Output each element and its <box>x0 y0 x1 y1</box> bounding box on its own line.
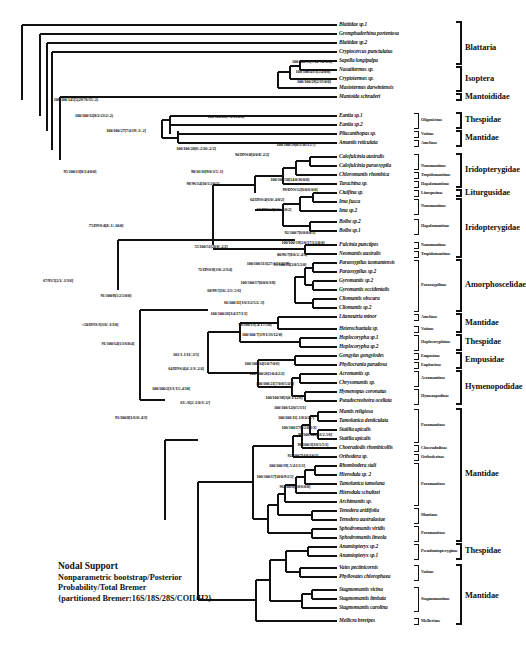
subfamily-label: Hoplocoryphinae <box>421 340 450 344</box>
taxon-label: Paraoxypilus tasmaniensis <box>339 260 395 265</box>
taxon-label: Paraoxypilus sp.2 <box>339 269 376 274</box>
taxon-label: Blattidae sp.1 <box>339 22 367 27</box>
nodal-support-value: 63/-/6[2/-1/0/3/-2/] <box>180 401 210 405</box>
subfamily-label: Stagmomantinae <box>421 597 450 601</box>
taxon-label: Tamolanica denticulata <box>339 418 388 423</box>
family-label: Thespidae <box>465 338 501 346</box>
taxon-label: Calofulcinia paraoxypila <box>339 163 391 168</box>
taxon-label: Sapella longipalpa <box>339 58 378 63</box>
nodal-support-value: 91/100/14[1/1/6/0/4] <box>102 342 135 346</box>
taxon-label: Phyllocrania paradoxa <box>339 362 387 367</box>
taxon-label: Cryptocercus punctulatus <box>339 49 392 54</box>
nodal-support-value: 100/100/21[7/0/0/5/4/0] <box>256 382 294 386</box>
taxon-label: Vates pectinicornis <box>339 565 378 570</box>
taxon-label: Hierodula sp. 2 <box>339 472 371 477</box>
taxon-label: Litaneutria minor <box>339 314 376 319</box>
taxon-label: Mantoida schraderi <box>339 94 380 99</box>
subfamily-label: Oligonicinae <box>421 118 442 122</box>
taxon-label: Choeradodis rhombicollis <box>339 445 393 450</box>
taxon-label: Mantis religiosa <box>339 409 373 414</box>
taxon-label: Tenodera aridifolia <box>339 508 379 513</box>
subfamily-label: Tropidomantinae <box>421 252 451 256</box>
family-label: Liturgusidae <box>465 189 510 197</box>
taxon-label: Amantis reticulata <box>339 140 378 145</box>
nodal-support-value: 92/100/7[4/0/1/0/1] <box>288 454 319 458</box>
taxon-label: Stagmomantis vicina <box>339 587 383 592</box>
nodal-support-value: 100/100/17[9/2/0/1/3] <box>282 426 317 430</box>
nodal-support-value: 55/100/51[20/0/-2/2] <box>194 245 227 249</box>
nodal-support-value: 64/DNS/4[4/-1/3/-2/4] <box>168 367 204 371</box>
subfamily-label: Nanomantinae <box>421 204 446 208</box>
family-label: Isoptera <box>465 75 494 83</box>
subfamily-label: Acromantinae <box>421 376 445 380</box>
subfamily-label: Empusinae <box>421 354 440 358</box>
family-label: Mantidae <box>465 134 499 142</box>
taxon-label: Eantia sp.2 <box>339 122 363 127</box>
taxon-label: Chloromantis rhombica <box>339 172 389 177</box>
subfamily-label: Choeradodinae <box>421 446 447 450</box>
taxon-label: Gyromantis occidentalis <box>339 287 389 292</box>
taxon-label: Ima sp.2 <box>339 208 357 213</box>
subfamily-label: Hymenopodinae <box>421 394 449 398</box>
subfamily-label: Hapalomantinae <box>421 224 449 228</box>
taxon-label: Orthodera sp. <box>339 454 368 459</box>
nodal-support-value: 100/100/19[-5/4/1/1/1] <box>269 464 305 468</box>
nodal-support-value: 96/100/8[9/0/6/0/0] <box>280 485 311 489</box>
nodal-support-value: 100/100/43/3[5/4/0/0] <box>296 70 331 74</box>
subfamily-label: Vatinae <box>421 132 434 136</box>
nodal-support-value: 66/100/11[3/6/3/2/5/2/-3] <box>224 301 264 305</box>
subfamily-label: Amelinae <box>421 315 437 319</box>
nodal-support-value: 98/96/14[10/1/2/0/1] <box>187 182 220 186</box>
taxon-label: Gongylus gongylodes <box>339 353 384 358</box>
nodal-support-value: 80/96/7[8/0/2/-4/1] <box>277 253 307 257</box>
taxon-label: Hymenopus coronatus <box>339 389 386 394</box>
family-label: Mantidae <box>465 592 499 600</box>
subfamily-label: Hapalomantinae <box>421 182 449 186</box>
subfamily-label: Orthoderinae <box>421 455 444 459</box>
nodal-support-value: 100/100/50[14/0/36/0/0] <box>271 178 310 182</box>
subfamily-label: Pseudomiopteryginae <box>421 549 458 553</box>
nodal-support-value: 100/100/59[0/1/36/15/7] <box>277 143 316 147</box>
family-label: Thespidae <box>465 116 501 124</box>
taxon-label: Anamiopteryx sp.1 <box>339 553 378 558</box>
subfamily-label: Nanomantinae <box>421 243 446 247</box>
nodal-support-value: 95/100/13[8/1/4/0/0] <box>64 170 97 174</box>
taxon-label: Acromantis sp. <box>339 371 370 376</box>
nodal-support-value: <50/DNS/4[6/0/-4/0/2] <box>255 208 292 212</box>
taxon-label: Nasutitermes sp. <box>339 67 373 72</box>
taxon-label: Mellicra brevipes <box>339 618 375 623</box>
taxon-label: Heterochaetula sp. <box>339 326 378 331</box>
taxon-label: Gyromantis sp.2 <box>339 278 373 283</box>
taxon-label: Tarachina sp. <box>339 181 367 186</box>
nodal-support-value: 100/100/113[27/1/51/25/9] <box>247 262 290 266</box>
nodal-support-value: 99/DNS/12[6/0/6/0/0] <box>283 188 318 192</box>
nodal-support-value: 100/100/17[0/0/6/3/8] <box>241 281 276 285</box>
legend-heading: Nodal Support <box>58 560 211 573</box>
family-label: Mantidae <box>465 319 499 327</box>
taxon-label: Fulcinia punctipes <box>339 242 378 247</box>
nodal-support-value: 91/100/8[1/2/5/0/0] <box>101 294 132 298</box>
nodal-support-value: 100/100/26[1/0/4/2/2] <box>250 372 285 376</box>
nodal-support-value: 101/1-1/11/-3/5] <box>173 353 199 357</box>
family-label: Empusidae <box>465 356 504 364</box>
family-label: Mantoididae <box>465 93 510 101</box>
taxon-label: Bolbe sp.2 <box>339 219 361 224</box>
subfamily-label: Vatinae <box>421 327 434 331</box>
nodal-support-value: 64/DNS/4[6/0/-4/0/2] <box>250 198 284 202</box>
nodal-support-legend: Nodal Support Nonparametric bootstrap/Po… <box>58 560 211 605</box>
taxon-label: Ciulfina sp. <box>339 190 363 195</box>
nodal-support-value: 100/100/26[3/4/17/1/1] <box>211 312 248 316</box>
nodal-support-value: 100/100/11[-1/8/4/2/7] <box>278 416 314 420</box>
subfamily-label: Tropidomantinae <box>421 173 451 177</box>
subfamily-label: Euphusinae <box>421 363 441 367</box>
nodal-support-value: 100/100/19[2/0/17/1/2/0/0] <box>282 241 325 245</box>
taxon-label: Phyllovates chlorophaea <box>339 574 390 579</box>
subfamily-label: Mantinae <box>421 513 437 517</box>
subfamily-label: Paramantinae <box>421 482 445 486</box>
taxon-label: Sphodromantis lineola <box>339 535 386 540</box>
taxon-label: Cliomantis sp.2 <box>339 305 371 310</box>
nodal-support-value: 98/100/13[-4/17/5/0] <box>238 323 271 327</box>
nodal-support-value: 71/DNS/8[3/0/-2/3/4] <box>198 268 232 272</box>
taxon-label: Stagmomantis carolina <box>339 605 388 610</box>
nodal-support-value: 98/100/3[3/6/5/5/1] <box>298 443 329 447</box>
